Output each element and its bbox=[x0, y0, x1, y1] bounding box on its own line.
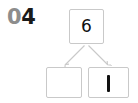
question-number-prefix: 0 bbox=[7, 5, 21, 29]
question-number-label: 04 bbox=[7, 5, 35, 29]
arrow-to-right-part bbox=[89, 46, 108, 65]
question-number-value: 4 bbox=[21, 5, 35, 29]
number-bond-part-value-left bbox=[47, 68, 81, 97]
worksheet-problem-canvas: 04 6 1 bbox=[0, 0, 138, 103]
number-bond-part-box-left[interactable] bbox=[46, 67, 82, 98]
number-bond-part-box-right[interactable]: 1 bbox=[88, 67, 129, 98]
number-bond-total-box[interactable]: 6 bbox=[69, 9, 104, 44]
number-bond-total-value: 6 bbox=[70, 10, 103, 43]
arrow-to-left-part bbox=[66, 46, 85, 65]
digit-one-stroke-icon bbox=[107, 75, 110, 92]
